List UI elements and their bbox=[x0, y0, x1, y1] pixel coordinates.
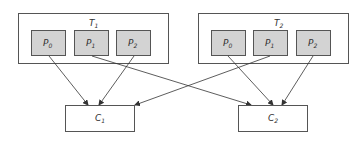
partition-t2-p2: P2 bbox=[297, 31, 331, 56]
partition-t2-p1: P1 bbox=[254, 31, 288, 56]
consumer-c2: C2 bbox=[239, 106, 308, 132]
partition-t2-p0: P0 bbox=[212, 31, 246, 56]
partition-t1-p2: P2 bbox=[117, 31, 151, 56]
topic-t2: T2 P0 P1 P2 bbox=[199, 14, 349, 64]
partition-t1-p0: P0 bbox=[32, 31, 66, 56]
partition-t1-p1: P1 bbox=[75, 31, 109, 56]
diagram-canvas: T1 P0 P1 P2 T2 P0 P1 P2 bbox=[0, 0, 364, 141]
consumer-c1: C1 bbox=[66, 106, 135, 132]
topic-t1: T1 P0 P1 P2 bbox=[19, 14, 169, 64]
